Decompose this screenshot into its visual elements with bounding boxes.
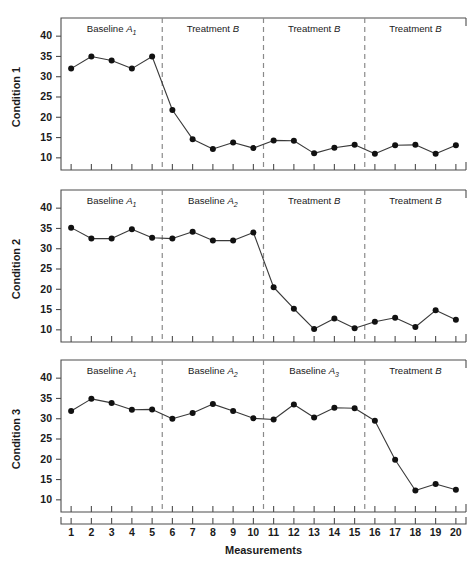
data-point [352,325,358,331]
x-tick-label: 15 [349,526,361,538]
y-tick-label: 20 [40,453,52,465]
x-axis-group: 1234567891011121314151617181920 [61,517,466,538]
x-tick-label: 17 [389,526,401,538]
phase-label-subscript: 2 [233,201,238,208]
y-tick-label: 40 [40,371,52,383]
y-axis-title: Condition 3 [10,409,22,470]
data-point [453,317,459,323]
data-point [412,488,418,494]
data-point [271,137,277,143]
x-tick-label: 4 [129,526,135,538]
data-point [352,142,358,148]
x-tick-label: 6 [169,526,175,538]
data-point [190,410,196,416]
phase-label-symbol: A [125,23,132,34]
phase-label-symbol: B [334,195,341,206]
phase-label-subscript: 1 [133,201,137,208]
y-tick-label: 30 [40,70,52,82]
series-line [71,228,456,329]
y-tick-label: 35 [40,50,52,62]
data-point [230,238,236,244]
phase-label-subscript: 1 [133,29,137,36]
x-tick-label: 16 [369,526,381,538]
data-point [210,238,216,244]
data-point [392,315,398,321]
phase-label-symbol: B [435,365,442,376]
data-point [352,405,358,411]
phase-label-symbol: A [226,365,233,376]
phase-label: Baseline A3 [289,365,339,378]
phase-label-symbol: A [125,365,132,376]
data-point [412,142,418,148]
y-tick-label: 20 [40,111,52,123]
y-tick-label: 25 [40,90,52,102]
y-axis-title: Condition 2 [10,239,22,300]
data-point [250,230,256,236]
chart-canvas: 10152025303540Baseline A1Treatment BTrea… [0,0,474,566]
phase-label-symbol: B [334,23,341,34]
data-point [129,407,135,413]
data-point [271,417,277,423]
phase-label-text: Treatment [389,23,435,34]
phase-label: Baseline A1 [87,195,137,208]
x-tick-label: 11 [268,526,279,538]
data-point [331,405,337,411]
phase-label-text: Baseline [87,195,126,206]
data-point [88,53,94,59]
data-point [149,53,155,59]
data-point [210,401,216,407]
data-point [68,225,74,231]
panel-2: 10152025303540Baseline A1Baseline A2Trea… [10,190,466,342]
x-tick-label: 5 [149,526,155,538]
x-tick-label: 14 [329,526,341,538]
panels-group: 10152025303540Baseline A1Treatment BTrea… [10,18,466,512]
phase-label: Treatment B [389,365,442,376]
phase-label: Baseline A2 [188,195,238,208]
x-tick-label: 2 [88,526,94,538]
phase-label: Treatment B [187,23,240,34]
data-point [311,415,317,421]
data-point [291,306,297,312]
data-point [169,107,175,113]
data-point [372,319,378,325]
data-point [271,284,277,290]
data-point [433,151,439,157]
data-point [149,235,155,241]
data-point [311,326,317,332]
phase-label: Treatment B [288,195,341,206]
x-axis-title: Measurements [225,544,302,556]
data-point [109,58,115,64]
panel-1: 10152025303540Baseline A1Treatment BTrea… [10,18,466,170]
data-point [250,415,256,421]
data-point [331,145,337,151]
phase-label-text: Baseline [289,365,328,376]
data-point [169,416,175,422]
data-point [433,307,439,313]
y-tick-label: 10 [40,151,52,163]
phase-label-symbol: B [233,23,240,34]
y-tick-label: 20 [40,283,52,295]
phase-label-subscript: 3 [335,371,339,378]
y-tick-label: 10 [40,493,52,505]
y-tick-label: 15 [40,131,52,143]
phase-label: Treatment B [389,23,442,34]
phase-label-text: Treatment [288,195,334,206]
y-tick-label: 25 [40,432,52,444]
data-point [433,481,439,487]
data-point [169,236,175,242]
x-tick-label: 19 [430,526,442,538]
data-point [250,145,256,151]
y-tick-label: 35 [40,222,52,234]
data-point [372,418,378,424]
phase-label-text: Treatment [187,23,233,34]
y-tick-label: 15 [40,303,52,315]
data-point [230,139,236,145]
data-point [109,236,115,242]
phase-label-symbol: B [435,23,442,34]
y-tick-label: 15 [40,473,52,485]
phase-label-text: Baseline [87,365,126,376]
phase-label: Treatment B [288,23,341,34]
y-tick-label: 25 [40,262,52,274]
y-axis-title: Condition 1 [10,67,22,128]
data-point [68,408,74,414]
